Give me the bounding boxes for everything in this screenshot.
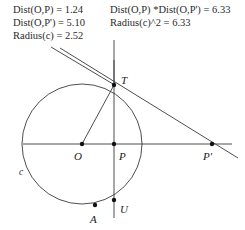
- annotation-dist-o-pprime: Dist(O,P') = 5.10: [13, 16, 85, 29]
- annotation-right-block: Dist(O,P) *Dist(O,P') = 6.33 Radius(c)^2…: [110, 3, 230, 29]
- point-dot-O: [80, 142, 84, 146]
- point-dot-T: [112, 83, 116, 87]
- segments-group: [23, 48, 238, 218]
- point-dot-A: [93, 203, 97, 207]
- annotation-product-of-distances: Dist(O,P) *Dist(O,P') = 6.33: [110, 3, 230, 16]
- annotation-radius-squared: Radius(c)^2 = 6.33: [110, 16, 230, 29]
- point-label-P: P: [119, 150, 126, 162]
- point-label-U: U: [120, 203, 128, 215]
- annotation-radius-c: Radius(c) = 2.52: [13, 29, 85, 42]
- circle-label-c: c: [19, 167, 23, 177]
- point-dot-Pp: [210, 142, 214, 146]
- point-label-O: O: [74, 150, 82, 162]
- annotation-left-block: Dist(O,P) = 1.24 Dist(O,P') = 5.10 Radiu…: [13, 3, 85, 43]
- segment-tangent-T-Pp: [60, 48, 238, 158]
- annotation-dist-o-p: Dist(O,P) = 1.24: [13, 3, 85, 16]
- point-label-T: T: [121, 74, 127, 86]
- point-label-Pp: P': [203, 150, 212, 162]
- point-dot-U: [112, 198, 116, 202]
- leader-left: [51, 47, 113, 84]
- point-label-A: A: [90, 213, 97, 225]
- segment-radius-OT: [82, 85, 114, 144]
- point-dot-P: [112, 142, 116, 146]
